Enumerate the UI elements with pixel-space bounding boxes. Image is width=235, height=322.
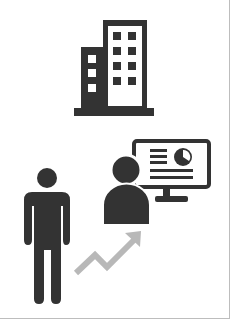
illustration: [0, 0, 235, 322]
building-windows-left: [88, 55, 96, 92]
standing-person-icon: [24, 168, 70, 304]
pie-chart-icon: [174, 148, 192, 166]
building-windows-right: [113, 32, 136, 85]
presenter-icon: [103, 155, 150, 225]
trend-up-arrow-icon: [76, 231, 141, 273]
